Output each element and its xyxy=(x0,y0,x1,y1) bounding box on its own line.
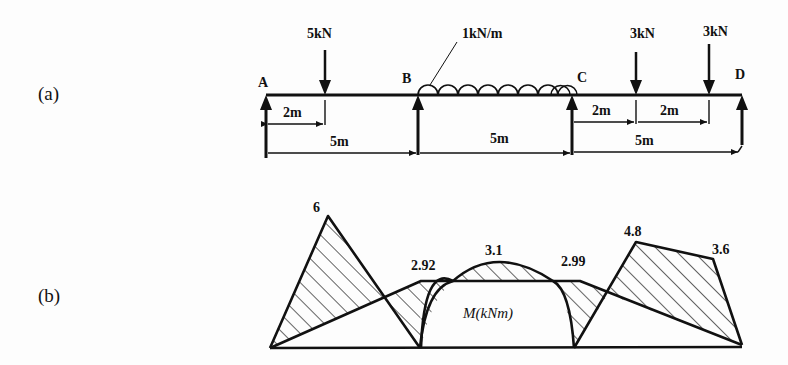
support-b-arrow xyxy=(412,95,424,155)
moment-value-3-1: 3.1 xyxy=(485,243,503,258)
support-label-c: C xyxy=(577,70,587,85)
dim-label-2m-c2: 2m xyxy=(660,103,679,118)
load-label-3kn-1: 3kN xyxy=(630,26,655,41)
load-label-5kn: 5kN xyxy=(307,26,332,41)
support-label-a: A xyxy=(258,75,269,90)
moment-value-2-92: 2.92 xyxy=(411,258,436,273)
moment-value-3-6: 3.6 xyxy=(712,242,730,257)
moment-value-4-8: 4.8 xyxy=(624,224,642,239)
load-label-3kn-2: 3kN xyxy=(703,24,728,39)
support-d-arrow xyxy=(736,95,748,145)
support-c-arrow xyxy=(566,95,578,155)
support-label-b: B xyxy=(402,71,411,86)
dim-label-2m-c1: 2m xyxy=(592,103,611,118)
support-label-d: D xyxy=(735,67,745,82)
dim-label-2m-a: 2m xyxy=(283,105,302,120)
moment-value-2-99: 2.99 xyxy=(561,254,586,269)
moment-baseline xyxy=(270,347,742,348)
moment-axis-label: M(kNm) xyxy=(462,305,513,322)
point-load-3kn-2-arrow xyxy=(703,44,715,95)
point-load-5kn-arrow xyxy=(319,50,331,95)
dim-label-5m-ab: 5m xyxy=(330,134,349,149)
diagram-canvas: A B C D 5kN 1kN/m 3kN 3kN 2m 5m 5m 2m 2m… xyxy=(0,0,788,365)
dim-label-5m-bc: 5m xyxy=(490,131,509,146)
beam-diagram: A B C D 5kN 1kN/m 3kN 3kN 2m 5m 5m 2m 2m… xyxy=(258,24,748,158)
dim-label-5m-cd: 5m xyxy=(635,133,654,148)
point-load-3kn-1-arrow xyxy=(630,52,642,95)
moment-diagram: 6 2.92 3.1 2.99 4.8 3.6 M(kNm) xyxy=(270,200,742,348)
udl-load xyxy=(418,42,577,95)
load-label-udl: 1kN/m xyxy=(462,26,503,41)
support-a-arrow xyxy=(260,95,272,158)
moment-value-6: 6 xyxy=(313,200,320,215)
